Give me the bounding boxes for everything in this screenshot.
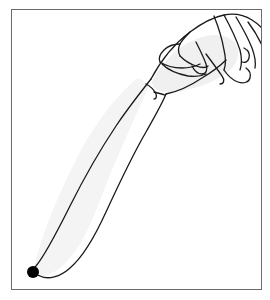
figure-panel [0, 0, 270, 300]
knuckle-line-3 [236, 17, 255, 68]
hand-forearm-lineart [0, 0, 270, 300]
forearm-shading [33, 78, 150, 276]
fingertip-marker-dot [27, 266, 39, 278]
fingertip-detail [242, 48, 249, 62]
